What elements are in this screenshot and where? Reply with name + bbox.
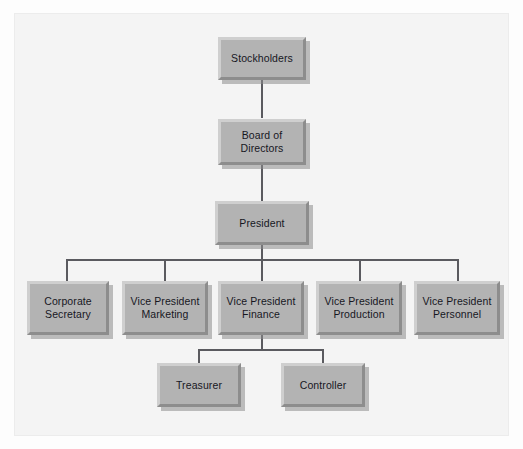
connector-drop-vp-marketing <box>164 259 166 281</box>
connector-president-to-bus <box>261 245 263 259</box>
node-label: Treasurer <box>173 379 225 392</box>
connector-drop-vp-personnel <box>457 259 459 281</box>
node-board-of-directors[interactable]: Board of Directors <box>218 119 306 165</box>
node-treasurer[interactable]: Treasurer <box>157 363 241 407</box>
node-vice-president-production[interactable]: Vice President Production <box>316 281 402 335</box>
node-label: Vice President Production <box>322 295 397 321</box>
node-label: Vice President Marketing <box>128 295 203 321</box>
connector-bus-level5 <box>198 349 324 351</box>
connector-stockholders-to-board <box>261 80 263 118</box>
node-vice-president-finance[interactable]: Vice President Finance <box>218 281 304 335</box>
connector-drop-vp-production <box>359 259 361 281</box>
node-president[interactable]: President <box>215 201 309 245</box>
connector-board-to-president <box>261 165 263 201</box>
node-label: Corporate Secretary <box>41 295 95 321</box>
node-vice-president-marketing[interactable]: Vice President Marketing <box>122 281 208 335</box>
node-label: Stockholders <box>228 52 296 65</box>
node-stockholders[interactable]: Stockholders <box>218 37 306 80</box>
node-label: Vice President Finance <box>224 295 299 321</box>
node-vice-president-personnel[interactable]: Vice President Personnel <box>414 281 500 335</box>
connector-drop-corporate-secretary <box>66 259 68 281</box>
node-label: President <box>236 217 287 230</box>
node-controller[interactable]: Controller <box>281 363 365 407</box>
node-label: Controller <box>297 379 350 392</box>
connector-drop-treasurer <box>198 349 200 363</box>
node-label: Vice President Personnel <box>420 295 495 321</box>
connector-drop-controller <box>322 349 324 363</box>
connector-vp-finance-to-bus <box>261 335 263 349</box>
org-chart: Stockholders Board of Directors Presiden… <box>0 0 523 449</box>
node-label: Board of Directors <box>238 129 287 155</box>
node-corporate-secretary[interactable]: Corporate Secretary <box>27 281 109 335</box>
connector-drop-vp-finance <box>261 259 263 281</box>
